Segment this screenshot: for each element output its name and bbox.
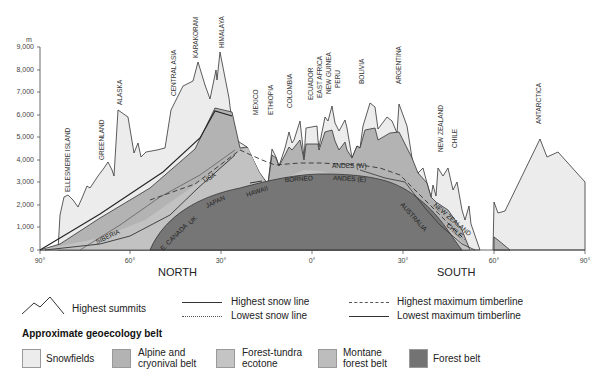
antarctica-silhouette [493, 139, 585, 250]
y-tick-7000: 7,000 [16, 88, 34, 95]
label-antarctica: ANTARCTICA [535, 82, 542, 124]
legend-forest-tundra-1: Forest-tundra [242, 348, 302, 358]
legend-highest-max-timberline: Highest maximum timberline [397, 296, 523, 307]
y-tick-3000: 3,000 [16, 178, 34, 185]
label-peru: PERU [334, 70, 341, 88]
highest-timberline-swatch [349, 302, 389, 303]
y-tick-4000: 4,000 [16, 156, 34, 163]
label-east-africa: EAST AFRICA [316, 55, 323, 98]
swatch-montane [318, 349, 337, 368]
label-argentina: ARGENTINA [395, 45, 402, 84]
label-mexico: MEXICO [252, 89, 259, 115]
x-tick-30s: 30° [398, 257, 409, 264]
y-tick-5000: 5,000 [16, 133, 34, 140]
label-ellesmere-island: ELLESMERE ISLAND [64, 127, 71, 192]
legend-montane-2: forest belt [343, 359, 387, 369]
swatch-forest-tundra [216, 349, 235, 368]
legend-highest-summits: Highest summits [72, 303, 146, 314]
label-karakoram: KARAKORAM [192, 16, 199, 58]
y-tick-8000: 8,000 [16, 66, 34, 73]
x-tick-90s: 90° [580, 257, 591, 264]
x-tick-60n: 60° [125, 257, 136, 264]
y-tick-1000: 1,000 [16, 223, 34, 230]
legend-belt-title: Approximate geoecology belt [22, 328, 162, 339]
legend-montane-1: Montane [343, 348, 382, 358]
legend-forest-belt: Forest belt [433, 354, 480, 364]
label-colombia: COLOMBIA [286, 73, 293, 108]
legend-lowest-max-timberline: Lowest maximum timberline [397, 310, 521, 321]
y-tick-0: 0 [30, 246, 34, 253]
swatch-forest-belt [409, 349, 428, 368]
legend-snowfields: Snowfields [46, 354, 94, 364]
x-tick-0: 0° [309, 257, 316, 264]
label-alaska: ALASKA [116, 79, 123, 105]
label-bolivia: BOLIVIA [358, 58, 365, 84]
geoecology-profile-chart: m 9,000 8,000 7,000 6,000 5,000 4,000 3,… [0, 0, 605, 270]
label-ethiopia: ETHIOPIA [267, 84, 274, 115]
lowest-snow-line-swatch [182, 316, 222, 317]
south-label: SOUTH [437, 266, 476, 278]
legend-alpine-1: Alpine and [138, 348, 185, 358]
x-tick-60s: 60° [489, 257, 500, 264]
legend-highest-snow-line: Highest snow line [231, 296, 309, 307]
north-label: NORTH [158, 266, 197, 278]
label-himalaya: HIMALAYA [218, 15, 225, 48]
label-andes-w: ANDES (W) [332, 162, 367, 170]
y-axis-ticks [37, 47, 40, 250]
label-ecuador: ECUADOR [307, 67, 314, 100]
label-new-guinea: NEW GUINEA [325, 51, 332, 94]
legend-lowest-snow-line: Lowest snow line [231, 310, 307, 321]
summits-zigzag-icon [20, 294, 66, 316]
label-central-asia: CENTRAL ASIA [170, 49, 177, 96]
y-tick-2000: 2,000 [16, 201, 34, 208]
label-new-zealand: NEW ZEALAND [437, 105, 444, 152]
label-greenland: GREENLAND [98, 119, 105, 160]
lowest-timberline-swatch [349, 316, 389, 317]
y-axis-unit: m [26, 36, 32, 43]
highest-snow-line-swatch [182, 302, 222, 303]
legend-alpine-2: cryonival belt [138, 359, 196, 369]
y-tick-6000: 6,000 [16, 111, 34, 118]
legend-forest-tundra-2: ecotone [242, 359, 278, 369]
y-tick-9000: 9,000 [16, 43, 34, 50]
swatch-alpine [112, 349, 131, 368]
swatch-snowfields [22, 349, 41, 368]
label-chile: CHILE [451, 128, 458, 148]
x-axis-ticks [40, 250, 585, 254]
x-tick-30n: 30° [216, 257, 227, 264]
x-tick-90n: 90° [35, 257, 46, 264]
